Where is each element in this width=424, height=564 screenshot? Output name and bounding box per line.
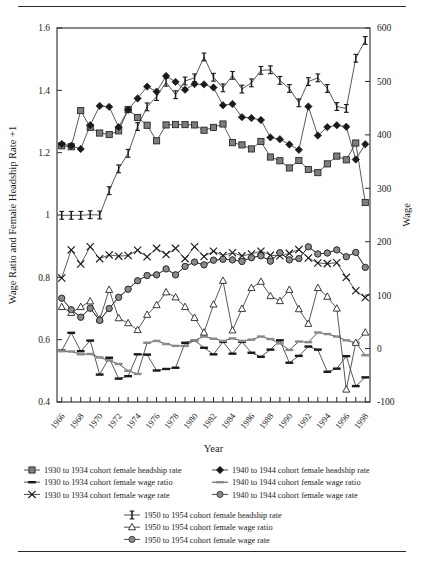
series-line [62, 281, 366, 390]
marker-diamond [210, 84, 217, 91]
marker-square [163, 122, 169, 128]
marker-square [286, 165, 292, 171]
marker-hbar [267, 348, 275, 350]
marker-square [315, 170, 321, 176]
marker-square [172, 122, 178, 128]
marker-square [153, 138, 159, 144]
marker-circle [135, 278, 141, 284]
marker-circle [144, 272, 150, 278]
marker-hbar [285, 349, 293, 351]
legend-label: 1930 to 1934 cohort female wage rate [44, 491, 170, 500]
marker-triangle [248, 284, 255, 290]
marker-hbar [267, 338, 275, 340]
marker-square [296, 157, 302, 163]
y-tick-label: 1.6 [38, 23, 50, 33]
marker-square [144, 122, 150, 128]
marker-square [78, 107, 84, 113]
data-series-layer [58, 37, 369, 393]
series-c40_headship [58, 72, 369, 163]
marker-hbar [276, 339, 284, 341]
marker-circle [182, 263, 188, 269]
marker-circle [59, 295, 65, 301]
marker-square [201, 127, 207, 133]
marker-square [343, 157, 349, 163]
x-tick-label: 1994 [314, 411, 333, 431]
marker-hbar [96, 373, 104, 375]
marker-triangle [163, 288, 170, 294]
marker-hbar [304, 341, 312, 343]
marker-circle [296, 256, 302, 262]
marker-hbar [181, 345, 189, 347]
marker-hbar [28, 481, 36, 483]
marker-triangle [229, 327, 236, 333]
marker-circle [201, 262, 207, 268]
marker-circle [106, 305, 112, 311]
marker-triangle [267, 292, 274, 298]
chart-figure: 0.40.60.811.21.41.6 -1000100200300400500… [0, 0, 424, 564]
marker-circle [125, 286, 131, 292]
legend-entry-bottom-0: 1950 to 1954 cohort female headship rate [124, 511, 282, 520]
marker-circle [78, 314, 84, 320]
marker-triangle [58, 303, 65, 309]
marker-hbar [181, 342, 189, 344]
marker-hbar [285, 362, 293, 364]
marker-hbar [229, 352, 237, 354]
marker-circle [217, 491, 223, 497]
marker-diamond [257, 116, 264, 123]
legend-entry-bottom-1: 1950 to 1954 cohort female wage ratio [124, 523, 273, 532]
y-tick-label: 0.8 [38, 273, 50, 283]
marker-hbar [248, 352, 256, 354]
marker-hbar [67, 350, 75, 352]
marker-diamond [333, 122, 340, 129]
marker-square [248, 146, 254, 152]
x-tick-label: 1998 [352, 411, 370, 431]
marker-diamond [77, 145, 84, 152]
marker-diamond [343, 123, 350, 130]
y-tick-label: 1.2 [38, 148, 50, 158]
y2-tick-label: 200 [377, 237, 392, 247]
legend-label: 1950 to 1954 cohort female wage rate [144, 536, 270, 545]
marker-triangle [201, 329, 208, 335]
marker-triangle [87, 298, 94, 304]
marker-circle [191, 259, 197, 265]
marker-circle [210, 257, 216, 263]
legend-label: 1950 to 1954 cohort female wage ratio [144, 523, 273, 532]
marker-circle [248, 255, 254, 261]
marker-square [277, 158, 283, 164]
x-tick-label: 1992 [295, 411, 313, 431]
marker-square [97, 130, 103, 136]
marker-hbar [96, 356, 104, 358]
marker-square [191, 122, 197, 128]
marker-hbar [333, 367, 341, 369]
legend-entry-left-2: 1930 to 1934 cohort female wage rate [24, 491, 170, 500]
marker-hbar [115, 377, 123, 379]
marker-circle [258, 253, 264, 259]
marker-hbar [238, 340, 246, 342]
y-tick-label: 0.4 [38, 397, 50, 407]
marker-triangle [286, 286, 293, 292]
x-tick-label: 1974 [124, 411, 143, 431]
marker-circle [334, 247, 340, 253]
marker-hbar [77, 353, 85, 355]
marker-hbar [257, 335, 265, 337]
marker-triangle [238, 305, 245, 311]
marker-hbar [143, 342, 151, 344]
marker-square [353, 140, 359, 146]
marker-hbar [143, 353, 151, 355]
marker-triangle [125, 319, 132, 325]
y2-tick-label: 400 [377, 130, 392, 140]
marker-circle [163, 266, 169, 272]
x-tick-label: 1990 [276, 411, 294, 431]
marker-triangle [314, 284, 321, 290]
marker-square [305, 166, 311, 172]
y2-axis-title: Wage [401, 203, 412, 227]
legend-label: 1940 to 1944 cohort female wage rate [232, 491, 358, 500]
marker-hbar [200, 335, 208, 337]
marker-square [267, 154, 273, 160]
series-c50_wage_ratio [58, 277, 369, 392]
marker-square [135, 114, 141, 120]
marker-triangle [257, 278, 264, 284]
marker-diamond [276, 136, 283, 143]
marker-hbar [323, 333, 331, 335]
legend-entry-right-0: 1940 to 1944 cohort female headship rate [212, 466, 370, 475]
